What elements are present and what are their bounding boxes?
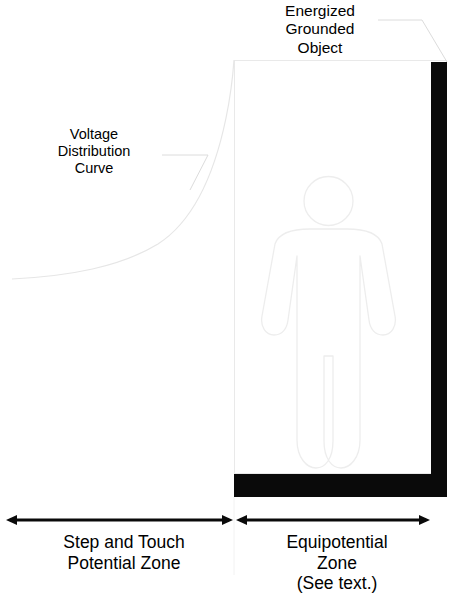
diagram-graphics — [0, 0, 459, 605]
equipotential-arrow-head-left — [236, 515, 247, 525]
energized-grounded-object-label: Energized Grounded Object — [260, 2, 380, 57]
energized-object-leader-line — [378, 20, 447, 62]
ground-mat-bar — [234, 474, 447, 497]
equipotential-zone-label: Equipotential Zone (See text.) — [240, 532, 434, 594]
equipotential-measure-arrow — [236, 515, 430, 525]
voltage-curve-leader-line — [162, 155, 208, 190]
equipotential-arrow-head-right — [419, 515, 430, 525]
step-touch-arrow-head-left — [6, 515, 17, 525]
voltage-distribution-curve-label: Voltage Distribution Curve — [28, 126, 160, 177]
equipotential-zone-rect — [235, 61, 447, 474]
diagram-canvas: Energized Grounded Object Voltage Distri… — [0, 0, 459, 605]
energized-grounded-object-bar — [431, 62, 447, 474]
step-touch-measure-arrow — [6, 515, 233, 525]
step-and-touch-potential-zone-label: Step and Touch Potential Zone — [18, 532, 230, 573]
step-touch-arrow-head-right — [222, 515, 233, 525]
